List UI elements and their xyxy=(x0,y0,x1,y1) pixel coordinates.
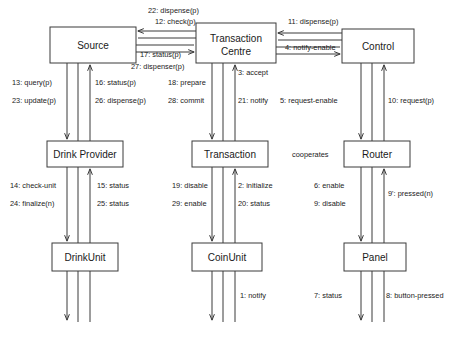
node-label2-transaction-centre: Centre xyxy=(221,46,251,57)
edge-label-lbl-8: 8: button-pressed xyxy=(386,291,444,300)
node-layer: SourceTransactionCentreControlDrink Prov… xyxy=(47,23,414,271)
edge-label-lbl-12: 12: check(p) xyxy=(155,17,196,26)
edge-label-lbl-3: 3: accept xyxy=(238,68,268,77)
edge-label-lbl-16: 16: status(p) xyxy=(95,78,136,87)
edge-label-lbl-9p: 9': pressed(n) xyxy=(388,189,433,198)
edge-label-lbl-29: 29: enable xyxy=(172,199,207,208)
connector-panel-tails xyxy=(361,271,384,322)
edge-label-lbl-6: 6: enable xyxy=(314,181,344,190)
connector-source-transactioncentre xyxy=(136,31,196,52)
node-source[interactable]: Source xyxy=(50,27,136,63)
diagram-canvas: SourceTransactionCentreControlDrink Prov… xyxy=(0,0,468,344)
edge-label-lbl-23: 23: update(p) xyxy=(12,96,56,105)
node-label-drinkunit: DrinkUnit xyxy=(64,252,105,263)
node-label-coinunit: CoinUnit xyxy=(208,252,247,263)
edge-label-lbl-22: 22: dispense(p) xyxy=(148,6,199,15)
connector-router-panel xyxy=(361,167,384,243)
node-label-panel: Panel xyxy=(362,252,388,263)
collaboration-diagram: SourceTransactionCentreControlDrink Prov… xyxy=(0,0,468,344)
edge-label-lbl-19: 19: disable xyxy=(172,181,208,190)
edge-label-lbl-11: 11: dispense(p) xyxy=(288,17,338,26)
edge-label-lbl-28: 28: commit xyxy=(168,96,204,105)
edge-label-lbl-18: 18: prepare xyxy=(168,78,206,87)
edge-label-lbl-27: 27: dispenser(p) xyxy=(131,62,184,71)
figure-caption xyxy=(0,332,468,344)
node-label-router: Router xyxy=(362,149,393,160)
node-transaction[interactable]: Transaction xyxy=(192,141,268,167)
edge-label-lbl-14: 14: check-unit xyxy=(10,181,56,190)
edge-label-lbl-10: 10: request(p) xyxy=(388,96,434,105)
connector-transaction-coinunit xyxy=(212,167,235,243)
node-transaction-centre[interactable]: TransactionCentre xyxy=(196,23,276,63)
node-drink-provider[interactable]: Drink Provider xyxy=(47,141,123,167)
connector-control-router xyxy=(361,63,384,141)
node-drinkunit[interactable]: DrinkUnit xyxy=(52,243,118,271)
node-control[interactable]: Control xyxy=(342,29,414,63)
node-coinunit[interactable]: CoinUnit xyxy=(192,243,262,271)
node-label-drink-provider: Drink Provider xyxy=(53,149,117,160)
edge-label-lbl-20: 20: status xyxy=(238,199,270,208)
edge-label-lbl-13: 13: query(p) xyxy=(12,78,52,87)
connector-source-drinkprovider xyxy=(67,63,90,141)
edge-label-lbl-1: 1: notify xyxy=(240,291,266,300)
edge-label-lbl-21: 21: notify xyxy=(238,96,268,105)
edge-label-lbl-5: 5: request-enable xyxy=(280,96,338,105)
node-panel[interactable]: Panel xyxy=(344,243,406,271)
connector-drinkunit-tails xyxy=(67,271,90,322)
node-label-transaction-centre: Transaction xyxy=(210,33,262,44)
edge-label-lbl-17: 17: status(p) xyxy=(140,50,181,59)
node-label-transaction: Transaction xyxy=(204,149,256,160)
node-label-source: Source xyxy=(77,40,109,51)
connector-drinkprovider-drinkunit xyxy=(67,167,90,243)
edge-label-lbl-15: 15: status xyxy=(97,181,129,190)
edge-label-lbl-4: 4: notify-enable xyxy=(285,43,336,52)
edge-label-lbl-2: 2: initialize xyxy=(238,181,273,190)
edge-label-lbl-24: 24: finalize(n) xyxy=(10,199,54,208)
connector-coinunit-tails xyxy=(212,271,235,322)
edge-label-lbl-26: 26: dispense(p) xyxy=(95,96,146,105)
edge-label-lbl-25: 25: status xyxy=(97,199,129,208)
edge-label-lbl-9: 9: disable xyxy=(314,199,346,208)
node-router[interactable]: Router xyxy=(344,141,410,167)
connector-transactioncentre-transaction xyxy=(212,63,235,141)
edge-label-lbl-coop: cooperates xyxy=(292,150,329,159)
edge-label-lbl-7: 7: status xyxy=(314,291,342,300)
node-label-control: Control xyxy=(362,41,394,52)
